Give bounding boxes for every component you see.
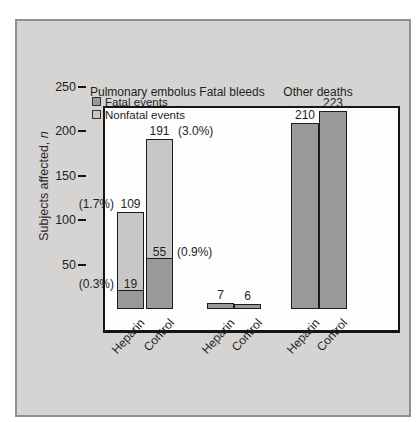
bar-fatal-bleeds-control	[234, 304, 261, 309]
bar-pulmonary-embolus-control	[146, 139, 173, 309]
bar-fatal-segment	[147, 258, 172, 308]
bar-fatal-bleeds-heparin	[207, 303, 234, 309]
y-axis-title: Subjects affected, n	[37, 111, 51, 261]
bar-total-value: 109	[111, 197, 151, 211]
y-tick-mark	[78, 219, 86, 221]
bar-other-deaths-heparin	[291, 123, 319, 309]
legend-label: Nonfatal events	[105, 109, 185, 122]
bar-fatal-pct: (0.3%)	[66, 277, 114, 291]
y-tick-mark	[78, 264, 86, 266]
bar-total-value: 191	[140, 124, 180, 138]
bar-total-pct: (1.7%)	[66, 197, 114, 211]
figure-page: 50100150200250Subjects affected, nFatal …	[0, 0, 419, 422]
y-tick-label: 250	[40, 79, 76, 95]
bar-total-value: 6	[228, 289, 268, 303]
bar-fatal-pct: (0.9%)	[177, 245, 212, 259]
y-axis-title-n: n	[37, 131, 51, 138]
bar-other-deaths-control	[319, 111, 347, 309]
y-tick-mark	[78, 130, 86, 132]
bar-pulmonary-embolus-heparin	[117, 212, 144, 309]
bar-total-value: 223	[313, 96, 353, 110]
bar-total-pct: (3.0%)	[178, 124, 213, 138]
legend-swatch-nonfatal	[92, 110, 101, 119]
y-tick-mark	[78, 175, 86, 177]
bar-fatal-value: 19	[111, 277, 151, 291]
y-axis-title-text: Subjects affected,	[37, 138, 51, 241]
bar-fatal-value: 55	[140, 245, 180, 259]
bar-fatal-segment	[118, 290, 143, 308]
